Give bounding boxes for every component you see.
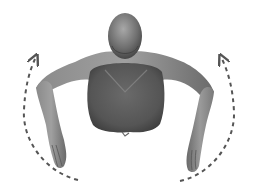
exercise-illustration: Figure bent forward with arms hanging, d… bbox=[0, 0, 261, 193]
torso bbox=[87, 63, 164, 136]
head bbox=[108, 13, 142, 59]
illustration-svg bbox=[0, 0, 261, 193]
left-arm bbox=[36, 81, 66, 168]
right-arm bbox=[187, 87, 214, 172]
